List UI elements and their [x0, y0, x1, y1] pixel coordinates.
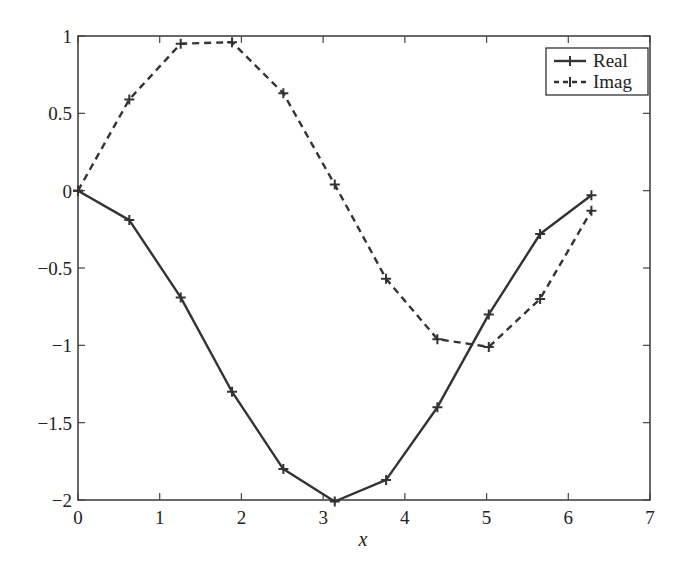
x-tick-label: 1 — [155, 507, 165, 528]
legend: Real Imag — [546, 48, 648, 95]
y-tick-label: −0.5 — [38, 258, 72, 279]
series-line — [78, 191, 591, 502]
line-chart: 0123456710.50−0.5−1−1.5−2 x Real Imag — [0, 0, 688, 571]
series-imag — [73, 37, 596, 352]
plus-marker-icon — [176, 39, 186, 49]
x-tick-label: 6 — [564, 507, 574, 528]
x-axis-label: x — [358, 528, 368, 550]
plot-border — [78, 36, 650, 500]
x-tick-label: 5 — [482, 507, 492, 528]
y-tick-label: 0 — [63, 181, 73, 202]
plus-marker-icon — [278, 88, 288, 98]
series-line — [78, 42, 591, 347]
plus-marker-icon — [330, 179, 340, 189]
legend-label-real: Real — [593, 50, 628, 71]
x-tick-label: 2 — [237, 507, 247, 528]
axis-ticks — [78, 36, 650, 500]
x-tick-label: 0 — [73, 507, 83, 528]
plus-marker-icon — [586, 206, 596, 216]
y-tick-label: −1.5 — [38, 413, 72, 434]
y-tick-label: 0.5 — [48, 103, 72, 124]
plus-marker-icon — [227, 37, 237, 47]
legend-label-imag: Imag — [593, 71, 633, 92]
y-tick-label: −2 — [52, 490, 72, 511]
x-tick-label: 4 — [400, 507, 410, 528]
x-tick-label: 7 — [645, 507, 655, 528]
y-tick-label: −1 — [52, 335, 72, 356]
plus-marker-icon — [73, 186, 83, 196]
x-tick-label: 3 — [318, 507, 328, 528]
series-real — [73, 186, 596, 507]
plot-area — [78, 36, 650, 500]
y-tick-label: 1 — [63, 26, 73, 47]
series-layer — [73, 37, 596, 506]
